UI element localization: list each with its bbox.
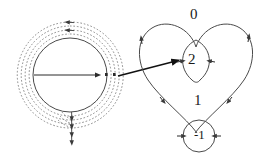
region-label-2: 2 (188, 52, 196, 67)
region-label-minus1: -1 (194, 128, 205, 141)
heart-right-lobe (195, 24, 253, 133)
mapping-arrow (118, 61, 176, 76)
inner-lens-bottom (192, 80, 200, 82)
winding-number-figure: 0 2 1 -1 (0, 0, 272, 157)
heart-left-lobe (139, 24, 197, 133)
region-label-0: 0 (190, 7, 198, 22)
inner-lens-right (196, 40, 209, 80)
region-label-1: 1 (194, 93, 202, 108)
figure-canvas (0, 0, 272, 157)
radius-ring-markers (105, 73, 116, 76)
